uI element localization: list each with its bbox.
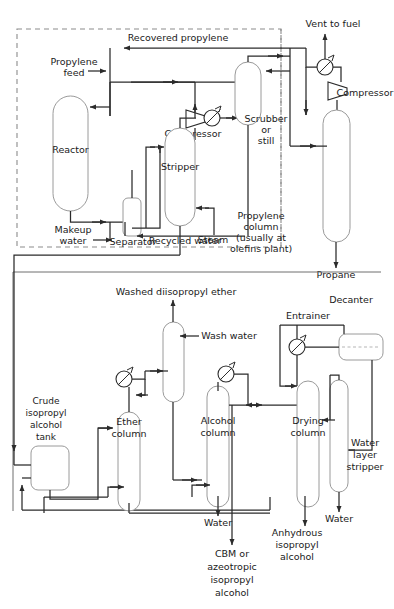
recovered-propylene-label: Recovered propylene	[128, 32, 229, 43]
water-layer-stripper-label-line1: Water	[351, 437, 379, 448]
cbm-label-line4: alcohol	[215, 587, 249, 598]
wash-column-vessel	[163, 322, 184, 402]
propane-label: Propane	[317, 269, 356, 280]
condenser-scrubber-symbol	[204, 106, 221, 126]
makeup-water-label-line2: water	[59, 235, 86, 246]
alcohol-column-vessel	[207, 386, 229, 507]
propylene-column-label-line3: (usually at	[236, 232, 286, 243]
water-layer-stripper-label-line3: stripper	[346, 461, 383, 472]
stripper-label: Stripper	[161, 161, 199, 172]
propylene-feed-label-line1: Propylene	[50, 56, 97, 67]
drying-column-label-line2: column	[291, 427, 326, 438]
alcohol-column-label-line2: column	[201, 427, 236, 438]
drying-column-vessel	[297, 381, 319, 507]
propylene-feed-label-line2: feed	[63, 67, 84, 78]
decanter-vessel	[339, 334, 383, 360]
drying-column-label-line1: Drying	[292, 415, 324, 426]
scrubber-label-line1: Scrubber	[245, 113, 288, 124]
anhydrous-label-line1: Anhydrous	[272, 527, 323, 538]
entrainer-label: Entrainer	[286, 310, 330, 321]
water-2-label: Water	[325, 513, 353, 524]
ether-column-label-line2: column	[112, 428, 147, 439]
anhydrous-label-line3: alcohol	[280, 551, 314, 562]
propylene-column-label-line2: column	[244, 221, 279, 232]
process-flow-diagram: Reactor Propylene feed Recovered propyle…	[0, 0, 394, 609]
steam-label: Steam	[198, 234, 229, 245]
makeup-water-label-line1: Makeup	[54, 224, 91, 235]
compressor-2-label: Compressor	[337, 87, 394, 98]
condenser-alcohol-symbol	[218, 362, 235, 382]
vent-condenser-piping	[306, 48, 341, 115]
crude-tank-label-line3: alcohol	[30, 420, 62, 430]
alcohol-column-label-line1: Alcohol	[201, 415, 236, 426]
scrubber-label-line3: still	[258, 135, 275, 146]
washed-diisopropyl-ether-label: Washed diisopropyl ether	[116, 286, 237, 297]
propylene-column-label-line4: olefins plant)	[230, 243, 292, 254]
decanter-label: Decanter	[329, 294, 373, 305]
propylene-column-label-line1: Propylene	[237, 210, 284, 221]
water-layer-stripper-vessel	[330, 380, 348, 492]
propylene-column-feed	[290, 71, 327, 146]
crude-tank-vessel	[31, 446, 69, 490]
scrubber-label-line2: or	[261, 124, 271, 135]
entrainer-stream	[280, 325, 344, 386]
cbm-label-line1: CBM or	[215, 548, 249, 559]
vent-to-fuel-label: Vent to fuel	[306, 18, 361, 29]
propylene-column-vessel	[323, 110, 350, 242]
stripper-vessel	[165, 128, 195, 226]
crude-tank-label-line4: tank	[36, 432, 57, 442]
scrubber-overhead	[248, 56, 290, 62]
water-layer-stripper-label-line2: layer	[353, 449, 377, 460]
cbm-label-line2: azeotropic	[207, 561, 257, 572]
anhydrous-label-line2: isopropyl	[275, 539, 318, 550]
stripper-feed-line	[146, 147, 164, 228]
water-1-label: Water	[204, 517, 232, 528]
steam-stream	[196, 208, 214, 235]
alcohol-overhead-splitter	[229, 405, 297, 545]
separator-vessel	[123, 198, 141, 236]
reactor-label: Reactor	[52, 144, 89, 155]
ether-column-label-line1: Ether	[116, 416, 142, 427]
crude-tank-label-line2: isopropyl	[26, 408, 67, 418]
cbm-label-line3: isopropyl	[210, 574, 253, 585]
crude-tank-label-line1: Crude	[33, 396, 60, 406]
condenser-ether-symbol	[116, 367, 133, 387]
wash-water-label: Wash water	[201, 330, 257, 341]
